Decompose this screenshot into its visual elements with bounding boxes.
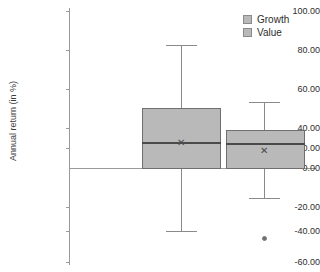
y-tick-mark <box>66 89 70 90</box>
box-plot-chart: Annual return (in %) 100.00 80.00 60.00 … <box>0 0 320 272</box>
legend-label-value: Value <box>257 27 282 38</box>
legend-swatch-icon <box>243 15 252 24</box>
chart-legend: Growth Value <box>243 14 289 40</box>
whisker-lower-growth <box>181 169 182 231</box>
y-tick-label-neg20: -20.00 <box>256 202 320 212</box>
whisker-cap-lower-growth <box>166 231 197 232</box>
legend-label-growth: Growth <box>257 14 289 25</box>
whisker-upper-growth <box>181 45 182 108</box>
y-tick-mark <box>66 207 70 208</box>
y-tick-mark <box>66 148 70 149</box>
y-axis-title: Annual return (in %) <box>8 61 18 181</box>
legend-swatch-icon <box>243 28 252 37</box>
mean-marker-value: ✕ <box>260 146 268 156</box>
y-tick-mark <box>66 50 70 51</box>
y-tick-label-neg40: -40.00 <box>256 226 320 236</box>
legend-item-growth: Growth <box>243 14 289 25</box>
legend-item-value: Value <box>243 27 289 38</box>
outlier-point-value <box>262 236 267 241</box>
whisker-cap-upper-value <box>249 102 280 103</box>
y-tick-label-60: 60.00 <box>256 84 320 94</box>
y-tick-mark <box>66 128 70 129</box>
y-tick-label-80: 80.00 <box>256 45 320 55</box>
whisker-cap-upper-growth <box>166 45 197 46</box>
y-tick-mark <box>66 231 70 232</box>
whisker-cap-lower-value <box>249 198 280 199</box>
mean-marker-growth: ✕ <box>177 138 185 148</box>
whisker-upper-value <box>264 102 265 130</box>
y-axis-line <box>69 8 70 265</box>
y-tick-mark <box>66 262 70 263</box>
whisker-lower-value <box>264 169 265 198</box>
y-tick-mark <box>66 11 70 12</box>
y-tick-label-neg60: -60.00 <box>256 257 320 267</box>
